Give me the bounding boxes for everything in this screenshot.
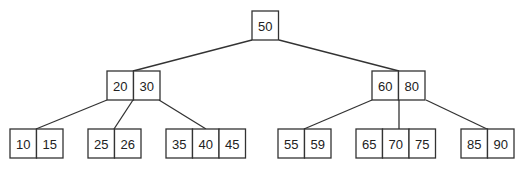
tree-node-l65_75: 657075 <box>356 129 436 158</box>
key-label: 70 <box>389 137 403 152</box>
edge-root-to-n60_80 <box>279 40 399 71</box>
edge-n20_30-to-l35_45 <box>159 100 206 129</box>
tree-node-l10_15: 1015 <box>10 129 63 158</box>
edge-n60_80-to-l55_59 <box>304 100 372 129</box>
edge-n60_80-to-l85_90 <box>426 100 487 129</box>
tree-node-root: 50 <box>252 11 279 40</box>
key-label: 50 <box>258 19 272 34</box>
edge-n20_30-to-l25_26 <box>114 100 133 129</box>
edge-n20_30-to-l10_15 <box>36 100 107 129</box>
tree-node-l55_59: 5559 <box>278 129 331 158</box>
tree-node-n60_80: 6080 <box>372 71 425 100</box>
key-label: 75 <box>415 137 429 152</box>
key-label: 60 <box>378 79 392 94</box>
key-label: 80 <box>405 79 419 94</box>
key-label: 30 <box>140 79 154 94</box>
key-label: 25 <box>94 137 108 152</box>
key-label: 45 <box>225 137 239 152</box>
edge-root-to-n20_30 <box>133 40 252 71</box>
key-label: 26 <box>121 137 135 152</box>
tree-node-l25_26: 2526 <box>88 129 141 158</box>
key-label: 90 <box>494 137 508 152</box>
key-label: 40 <box>199 137 213 152</box>
tree-nodes: 50203060801015252635404555596570758590 <box>10 11 514 158</box>
key-label: 85 <box>467 137 481 152</box>
b-tree-diagram: 50203060801015252635404555596570758590 <box>0 0 519 170</box>
tree-node-n20_30: 2030 <box>107 71 160 100</box>
key-label: 10 <box>16 137 30 152</box>
key-label: 35 <box>172 137 186 152</box>
key-label: 15 <box>43 137 57 152</box>
tree-node-l85_90: 8590 <box>461 129 514 158</box>
key-label: 20 <box>113 79 127 94</box>
key-label: 55 <box>284 137 298 152</box>
key-label: 59 <box>311 137 325 152</box>
key-label: 65 <box>362 137 376 152</box>
tree-node-l35_45: 354045 <box>166 129 246 158</box>
